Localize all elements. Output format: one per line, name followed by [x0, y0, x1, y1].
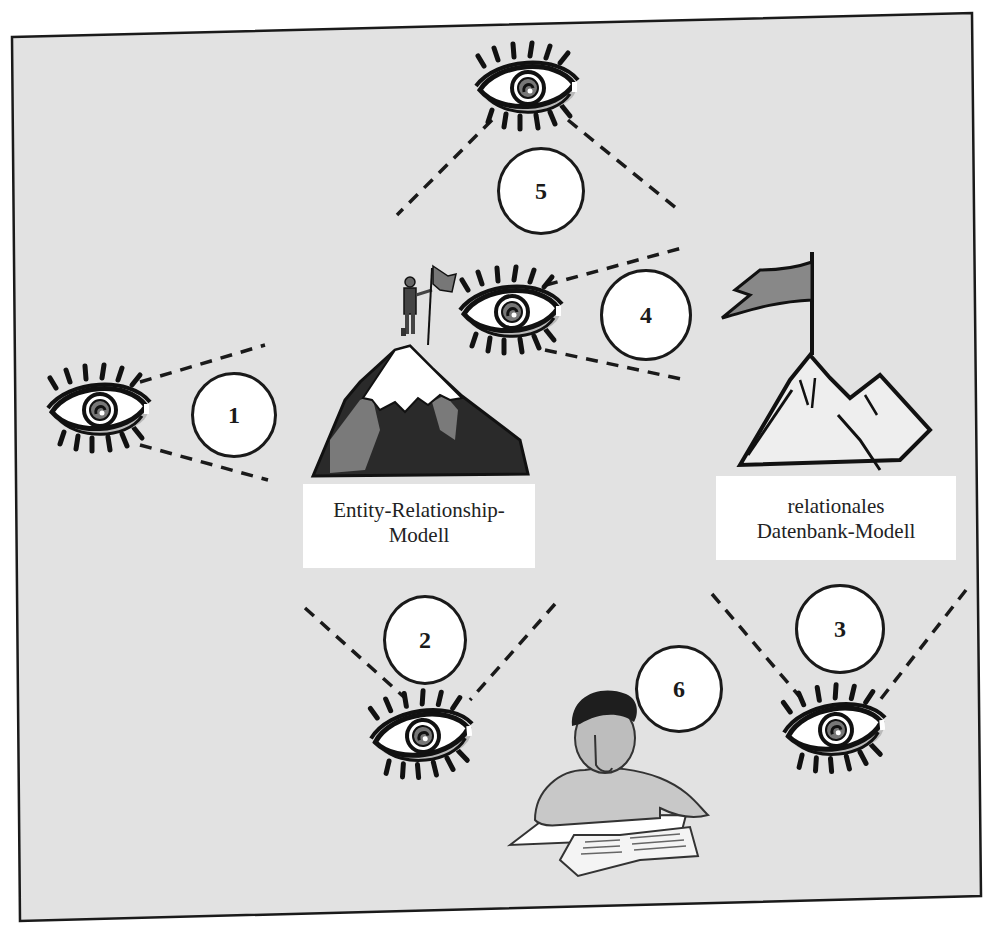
step-circle-1: 1 [191, 372, 277, 458]
relational-model-label-line2: Datenbank-Modell [716, 519, 956, 544]
step-circle-6: 6 [635, 645, 723, 733]
step-circle-2: 2 [383, 595, 467, 685]
step-circle-4: 4 [600, 269, 692, 361]
step-circle-5: 5 [497, 147, 585, 235]
er-model-label: Entity-Relationship- Modell [303, 484, 535, 568]
diagram-canvas [0, 0, 1006, 946]
relational-model-label-line1: relationales [716, 494, 956, 519]
er-model-label-line1: Entity-Relationship- [303, 498, 535, 523]
relational-model-label: relationales Datenbank-Modell [716, 476, 956, 560]
er-model-label-line2: Modell [303, 523, 535, 548]
step-circle-3: 3 [795, 584, 885, 674]
